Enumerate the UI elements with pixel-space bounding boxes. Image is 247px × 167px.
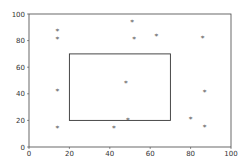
x-tick-label: 100 <box>224 150 237 158</box>
star-marker-icon: * <box>55 87 59 96</box>
star-marker-icon: * <box>189 115 193 124</box>
x-tick-label: 40 <box>105 150 114 158</box>
star-marker-icon: * <box>55 124 59 133</box>
y-tick-label: 60 <box>16 64 25 72</box>
y-tick-label: 80 <box>16 37 25 45</box>
star-marker-icon: * <box>203 123 207 132</box>
y-tick-label: 20 <box>16 117 25 125</box>
y-tick-label: 100 <box>12 11 25 19</box>
x-tick-label: 60 <box>146 150 155 158</box>
rectangle-annotation <box>69 54 170 121</box>
x-tick-label: 0 <box>27 150 31 158</box>
star-marker-icon: * <box>132 35 136 44</box>
star-marker-icon: * <box>130 18 134 27</box>
x-tick-label: 20 <box>65 150 74 158</box>
y-tick-label: 40 <box>16 90 25 98</box>
star-marker-icon: * <box>154 32 158 41</box>
star-marker-icon: * <box>201 34 205 43</box>
data-points: ************** <box>55 18 206 133</box>
star-marker-icon: * <box>203 88 207 97</box>
star-marker-icon: * <box>124 79 128 88</box>
y-tick-label: 0 <box>21 144 25 152</box>
x-tick-label: 80 <box>186 150 195 158</box>
star-marker-icon: * <box>55 35 59 44</box>
star-marker-icon: * <box>126 116 130 125</box>
star-marker-icon: * <box>112 124 116 133</box>
annotation-rect <box>69 54 170 121</box>
scatter-chart: 020406080100020406080100 ************** <box>0 0 247 167</box>
